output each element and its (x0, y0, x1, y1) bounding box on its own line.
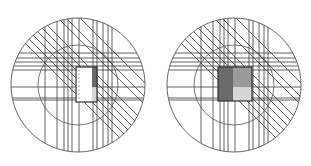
diagonal-line (147, 0, 311, 125)
right-circle-panel (147, 0, 311, 166)
diagonal-line (0, 0, 165, 125)
diagram-canvas: Two circular line-arrangement diagrams w… (0, 0, 311, 166)
left-circle-panel (0, 0, 165, 166)
shaded-region (233, 67, 252, 87)
shaded-region (92, 87, 97, 102)
shaded-region (92, 67, 97, 87)
shaded-region (218, 67, 233, 101)
shaded-region (233, 87, 252, 101)
line-arrangement-figure (0, 0, 311, 166)
